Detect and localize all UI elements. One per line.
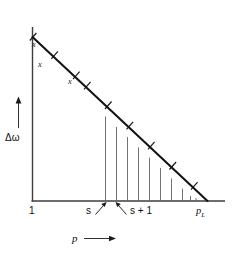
- x-tick-label-origin: 1: [29, 206, 35, 216]
- x-annotation-3: x: [68, 77, 72, 86]
- data-point-markers: [30, 33, 198, 190]
- x-tick-label-s-plus-1: s + 1: [130, 206, 152, 216]
- y-axis-label: Δω: [5, 133, 20, 143]
- figure-container: Δω p 1 s s + 1 pL x x x: [0, 0, 237, 257]
- hatch-region: [106, 117, 197, 201]
- s-plus-1-callout-arrow: [116, 202, 127, 215]
- x-annotation-2: x: [38, 60, 42, 69]
- data-line: [33, 37, 208, 201]
- x-axis-label: p: [72, 233, 78, 244]
- s-callout-arrow: [96, 202, 107, 215]
- y-axis-arrow: [16, 97, 22, 129]
- pl-subscript: L: [201, 211, 205, 219]
- x-tick-label-s: s: [86, 206, 91, 216]
- x-axis-arrow: [84, 236, 116, 242]
- x-tick-label-pl: pL: [196, 206, 205, 219]
- x-annotation-1: x: [32, 40, 36, 49]
